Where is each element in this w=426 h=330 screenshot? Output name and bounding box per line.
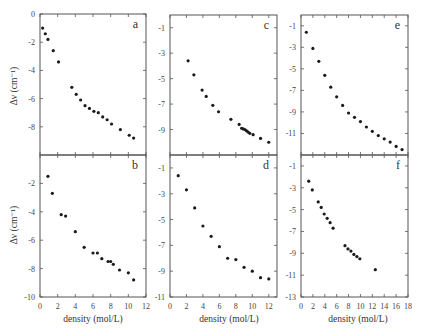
- data-point: [248, 132, 251, 135]
- data-point: [352, 253, 355, 256]
- plot-frame: [301, 155, 408, 297]
- xtick-label: 0: [38, 302, 42, 311]
- ytick-label: -7: [158, 100, 165, 109]
- xtick-label: 6: [335, 302, 339, 311]
- panel-letter: f: [396, 158, 400, 172]
- data-point: [349, 250, 352, 253]
- data-point: [332, 227, 335, 230]
- data-point: [205, 95, 208, 98]
- xtick-label: 16: [392, 302, 400, 311]
- data-point: [192, 73, 195, 76]
- xtick-label: 6: [217, 302, 221, 311]
- ytick-label: -4: [28, 208, 35, 217]
- ytick-label: -7: [158, 241, 165, 250]
- data-point: [70, 86, 73, 89]
- xtick-label: 4: [323, 302, 327, 311]
- data-point: [127, 271, 130, 274]
- ytick-label: -6: [28, 236, 35, 245]
- panel-letter: d: [263, 158, 269, 172]
- plot-frame: [40, 155, 146, 297]
- ytick-label: -10: [24, 293, 35, 302]
- data-point: [52, 49, 55, 52]
- data-point: [346, 247, 349, 250]
- xtick-label: 10: [124, 302, 132, 311]
- ytick-label: -9: [289, 108, 296, 117]
- data-point: [109, 260, 112, 263]
- data-point: [60, 213, 63, 216]
- ytick-label: -2: [28, 38, 35, 47]
- xtick-label: 4: [73, 302, 77, 311]
- xtick-label: 6: [91, 302, 95, 311]
- panel-letter: e: [395, 18, 400, 32]
- data-point: [377, 134, 380, 137]
- data-point: [132, 278, 135, 281]
- data-point: [252, 133, 255, 136]
- data-point: [201, 224, 204, 227]
- plot-frame: [170, 15, 277, 155]
- ytick-label: -11: [155, 293, 165, 302]
- data-point: [238, 123, 241, 126]
- xlabel-left: density (mol/L): [63, 314, 122, 325]
- xtick-label: 8: [109, 302, 113, 311]
- xtick-label: 12: [265, 302, 273, 311]
- plot-frame: [301, 15, 408, 155]
- data-point: [101, 115, 104, 118]
- data-point: [234, 258, 237, 261]
- data-point: [217, 110, 220, 113]
- panel-c: -1-3-5-7-9c: [158, 15, 277, 155]
- data-point: [83, 246, 86, 249]
- xtick-label: 0: [168, 302, 172, 311]
- data-point: [242, 266, 245, 269]
- ytick-label: -7: [289, 227, 296, 236]
- data-point: [229, 118, 232, 121]
- data-point: [371, 130, 374, 133]
- data-point: [353, 116, 356, 119]
- ytick-label: -11: [286, 129, 296, 138]
- data-point: [100, 257, 103, 260]
- panel-e: -1-3-5-7-9-11e: [286, 15, 408, 155]
- data-point: [74, 230, 77, 233]
- xtick-label: 12: [142, 302, 150, 311]
- xtick-label: 2: [56, 302, 60, 311]
- data-point: [91, 251, 94, 254]
- data-point: [400, 148, 403, 151]
- data-point: [193, 206, 196, 209]
- ytick-label: -1: [158, 164, 165, 173]
- data-point: [211, 104, 214, 107]
- data-point: [106, 118, 109, 121]
- data-point: [355, 255, 358, 258]
- xtick-label: 0: [299, 302, 303, 311]
- data-point: [88, 107, 91, 110]
- xtick-label: 4: [201, 302, 205, 311]
- ytick-label: -5: [289, 206, 296, 215]
- data-point: [251, 270, 254, 273]
- ytick-label: -8: [28, 123, 35, 132]
- data-point: [177, 174, 180, 177]
- xtick-label: 8: [234, 302, 238, 311]
- plot-frame: [170, 155, 277, 297]
- panel-letter: b: [132, 158, 138, 172]
- data-point: [383, 137, 386, 140]
- ytick-label: -1: [158, 24, 165, 33]
- ytick-label: -3: [158, 49, 165, 58]
- ytick-label: -5: [289, 65, 296, 74]
- ytick-label: -11: [286, 271, 296, 280]
- data-point: [311, 47, 314, 50]
- data-point: [201, 88, 204, 91]
- ytick-label: -9: [289, 249, 296, 258]
- data-point: [44, 32, 47, 35]
- figure-canvas: 0-2-4-6-8a-2-4-6-8-10024681012b-1-3-5-7-…: [0, 0, 426, 330]
- xtick-label: 12: [368, 302, 376, 311]
- data-point: [46, 175, 49, 178]
- data-point: [329, 86, 332, 89]
- panel-a: 0-2-4-6-8a: [28, 10, 146, 155]
- xlabel-right: density (mol/L): [328, 314, 387, 325]
- xtick-label: 2: [311, 302, 315, 311]
- data-point: [92, 110, 95, 113]
- panel-letter: c: [264, 18, 269, 32]
- data-point: [226, 257, 229, 260]
- data-point: [46, 38, 49, 41]
- data-point: [64, 214, 67, 217]
- data-point: [118, 268, 121, 271]
- ytick-label: -3: [289, 184, 296, 193]
